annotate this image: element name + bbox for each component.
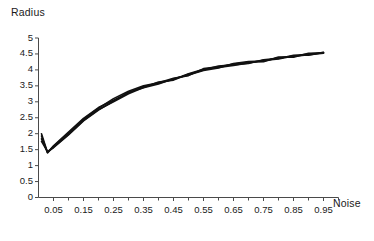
x-tick-label: 0.25 bbox=[99, 204, 129, 215]
x-tick-label: 0.75 bbox=[249, 204, 279, 215]
y-tick-label: 4 bbox=[7, 63, 33, 74]
series-line bbox=[42, 53, 324, 153]
y-tick-label: 3.5 bbox=[7, 79, 33, 90]
series-line bbox=[42, 52, 324, 152]
series-line bbox=[42, 53, 324, 151]
x-tick-label: 0.95 bbox=[309, 204, 339, 215]
y-tick-label: 4.5 bbox=[7, 47, 33, 58]
x-tick-label: 0.55 bbox=[189, 204, 219, 215]
y-tick-label: 5 bbox=[7, 32, 33, 43]
x-tick-label: 0.35 bbox=[129, 204, 159, 215]
chart-container: Radius Noise 00.511.522.533.544.55 0.050… bbox=[0, 0, 374, 241]
x-tick-label: 0.05 bbox=[39, 204, 69, 215]
y-tick-label: 3 bbox=[7, 95, 33, 106]
x-tick-label: 0.85 bbox=[279, 204, 309, 215]
x-tick-label: 0.65 bbox=[219, 204, 249, 215]
series-group bbox=[42, 52, 324, 152]
series-line bbox=[42, 53, 324, 153]
y-tick-label: 1.5 bbox=[7, 143, 33, 154]
y-tick-label: 2.5 bbox=[7, 111, 33, 122]
x-tick-label: 0.15 bbox=[69, 204, 99, 215]
y-tick-label: 2 bbox=[7, 127, 33, 138]
y-tick-label: 0 bbox=[7, 191, 33, 202]
y-tick-label: 1 bbox=[7, 159, 33, 170]
x-tick-label: 0.45 bbox=[159, 204, 189, 215]
y-tick-label: 0.5 bbox=[7, 175, 33, 186]
